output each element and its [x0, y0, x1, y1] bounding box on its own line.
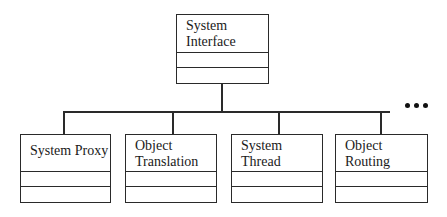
class-diagram: System Interface System Proxy Object Tra…: [0, 0, 447, 217]
attributes-divider: [21, 171, 110, 172]
methods-divider: [21, 186, 110, 187]
attributes-divider: [126, 171, 216, 172]
class-name: System Interface: [177, 15, 268, 50]
ellipsis-dot: [405, 103, 410, 108]
class-name: System Proxy: [21, 135, 110, 159]
ellipsis-dot: [414, 103, 419, 108]
class-box-object-translation: Object Translation: [125, 134, 217, 203]
attributes-divider: [336, 171, 427, 172]
methods-divider: [177, 67, 268, 68]
attributes-divider: [232, 171, 322, 172]
methods-divider: [336, 186, 427, 187]
class-box-object-routing: Object Routing: [335, 134, 428, 203]
methods-divider: [232, 186, 322, 187]
class-box-system-thread: System Thread: [231, 134, 323, 203]
root-connector: [221, 83, 223, 112]
branch-connector-2: [172, 111, 174, 134]
class-name: System Thread: [232, 135, 322, 170]
hierarchy-bus: [63, 111, 390, 113]
class-name: Object Routing: [336, 135, 427, 170]
class-box-system-proxy: System Proxy: [20, 134, 111, 203]
class-box-system-interface: System Interface: [176, 14, 269, 84]
branch-connector-3: [278, 111, 280, 134]
class-name: Object Translation: [126, 135, 216, 170]
ellipsis-dot: [423, 103, 428, 108]
attributes-divider: [177, 52, 268, 53]
branch-connector-4: [380, 111, 382, 134]
methods-divider: [126, 186, 216, 187]
branch-connector-1: [63, 111, 65, 134]
